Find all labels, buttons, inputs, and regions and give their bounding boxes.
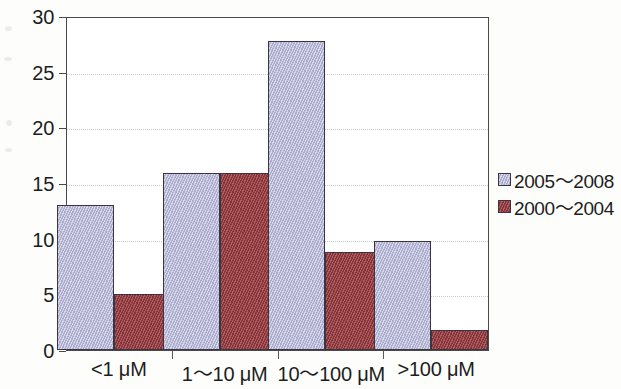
- x-tick-label: <1 μM: [66, 358, 172, 381]
- x-tick-label: 1～10 μM: [172, 358, 278, 387]
- x-tick-label: >100 μM: [383, 358, 489, 381]
- plot-area: [66, 17, 489, 351]
- scan-artifact: [4, 57, 12, 61]
- y-tick-label: 10: [0, 230, 54, 250]
- legend-swatch: [498, 173, 511, 186]
- legend-item: 2005～2008: [498, 166, 614, 193]
- bar: [57, 205, 114, 350]
- legend-swatch: [498, 200, 511, 213]
- y-tick-label: 30: [0, 7, 54, 27]
- legend-item: 2000～2004: [498, 193, 614, 220]
- y-tick-label: 0: [0, 341, 54, 361]
- y-tick-mark: [59, 17, 66, 18]
- bar: [268, 41, 325, 351]
- bar: [163, 173, 220, 350]
- y-tick-mark: [59, 184, 66, 185]
- y-tick-label: 25: [0, 63, 54, 83]
- y-tick-label: 5: [0, 285, 54, 305]
- y-tick-label: 20: [0, 118, 54, 138]
- y-tick-mark: [59, 73, 66, 74]
- bar-chart-figure: 051015202530 <1 μM1～10 μM10～100 μM>100 μ…: [0, 0, 621, 389]
- y-tick-mark: [59, 351, 66, 352]
- legend-label: 2005～2008: [514, 166, 614, 193]
- y-tick-label: 15: [0, 174, 54, 194]
- y-tick-mark: [59, 128, 66, 129]
- x-tick-label: 10～100 μM: [278, 358, 384, 387]
- legend: 2005～20082000～2004: [498, 166, 614, 220]
- bar: [374, 241, 431, 350]
- bar: [431, 330, 488, 350]
- legend-label: 2000～2004: [514, 193, 614, 220]
- scan-artifact: [5, 148, 12, 152]
